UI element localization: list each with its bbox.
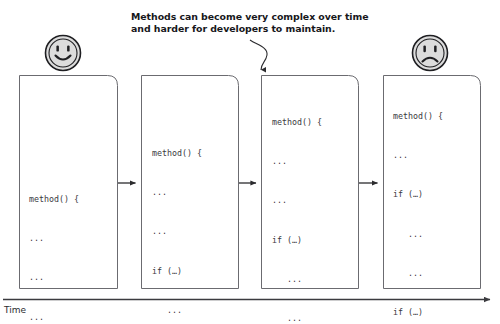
- code-line: method() {: [393, 110, 453, 123]
- timeline-label: Time: [4, 305, 26, 315]
- callout-curve: [250, 40, 267, 70]
- code-line: ...: [272, 194, 322, 207]
- code-line: ...: [272, 312, 322, 324]
- code-line: ...: [29, 311, 79, 324]
- code-line: ...: [393, 228, 453, 241]
- callout-arrow: [250, 40, 267, 70]
- complexity-over-time-diagram: Methods can become very complex over tim…: [0, 0, 500, 324]
- code-line: if (…): [152, 265, 202, 278]
- code-line: ...: [29, 232, 79, 245]
- caption-line-1: Methods can become very complex over tim…: [131, 11, 381, 23]
- caption-line-2: and harder for developers to maintain.: [131, 23, 381, 35]
- code-line: ...: [152, 186, 202, 199]
- code-line: method() {: [272, 116, 322, 129]
- stage-1-code: method() { ... ... ... }: [29, 167, 79, 324]
- happy-face-icon: [46, 36, 81, 71]
- diagram-caption: Methods can become very complex over tim…: [131, 11, 381, 36]
- code-line: ...: [152, 304, 202, 317]
- stage-3-code: method() { ... ... if (…) ... ... if (…)…: [272, 90, 322, 324]
- stage-4-code: method() { ... if (…) ... ... if (…) if …: [393, 84, 453, 324]
- code-line: ...: [29, 271, 79, 284]
- code-line: ...: [272, 273, 322, 286]
- code-line: ...: [272, 155, 322, 168]
- code-line: if (…): [393, 306, 453, 319]
- code-line: ...: [393, 267, 453, 280]
- code-line: method() {: [29, 193, 79, 206]
- code-line: if (…): [272, 234, 322, 247]
- code-line: ...: [152, 225, 202, 238]
- code-line: if (…): [393, 188, 453, 201]
- stage-2-code: method() { ... ... if (…) ... ... if (…)…: [152, 121, 202, 324]
- code-line: method() {: [152, 147, 202, 160]
- sad-face-icon: [413, 36, 448, 71]
- code-line: ...: [393, 149, 453, 162]
